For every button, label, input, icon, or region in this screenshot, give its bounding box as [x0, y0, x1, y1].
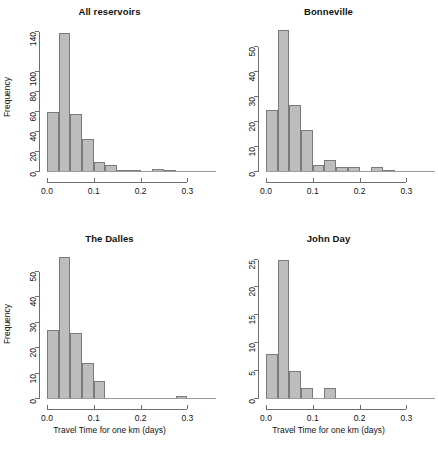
x-axis-tick-label: 0.2	[347, 413, 373, 423]
histogram-bar	[82, 139, 94, 172]
histogram-bar	[278, 30, 290, 173]
x-axis-line	[47, 182, 187, 183]
x-axis-tick	[266, 178, 267, 182]
x-axis-tick-label: 0.3	[393, 413, 419, 423]
panel-the-dalles: The Dalles Frequency Travel Time for one…	[0, 227, 219, 454]
histogram-bar	[70, 333, 82, 399]
y-axis-line	[258, 47, 259, 172]
histogram-bar	[82, 363, 94, 399]
bar-series	[266, 254, 411, 399]
plot-area: 0.00.10.20.30510152025	[266, 254, 411, 399]
y-axis-title: Frequency	[2, 294, 12, 354]
x-axis-tick	[141, 178, 142, 182]
histogram-bar	[289, 371, 301, 399]
y-axis-line	[39, 32, 40, 172]
plot-area: 0.00.10.20.301020304050	[47, 254, 192, 399]
x-axis-line	[47, 409, 187, 410]
x-axis-tick-label: 0.3	[393, 186, 419, 196]
x-axis-tick-label: 0.3	[174, 413, 200, 423]
histogram-bar	[59, 257, 71, 399]
bar-series	[47, 254, 192, 399]
histogram-bar	[94, 381, 106, 399]
plot-baseline	[266, 398, 435, 399]
x-axis-tick-label: 0.2	[347, 186, 373, 196]
plot-area: 0.00.10.20.301020304050	[266, 27, 411, 172]
y-axis-tick-label: 50	[28, 272, 38, 332]
x-axis-tick-label: 0.1	[300, 186, 326, 196]
panel-title: All reservoirs	[0, 6, 219, 17]
x-axis-tick	[187, 178, 188, 182]
x-axis-tick	[47, 178, 48, 182]
y-axis-tick-label: 50	[247, 47, 257, 107]
x-axis-tick	[313, 178, 314, 182]
x-axis-tick	[313, 405, 314, 409]
y-axis-line	[258, 260, 259, 399]
plot-baseline	[266, 171, 435, 172]
bar-series	[266, 27, 411, 172]
x-axis-line	[266, 182, 406, 183]
x-axis-tick	[47, 405, 48, 409]
plot-baseline	[47, 171, 216, 172]
histogram-bar	[59, 33, 71, 172]
x-axis-tick	[266, 405, 267, 409]
histogram-figure: All reservoirs Frequency 0.00.10.20.3020…	[0, 0, 438, 454]
histogram-bar	[70, 114, 82, 172]
x-axis-tick-label: 0.3	[174, 186, 200, 196]
panel-all-reservoirs: All reservoirs Frequency 0.00.10.20.3020…	[0, 0, 219, 227]
x-axis-tick	[94, 405, 95, 409]
x-axis-tick-label: 0.1	[81, 413, 107, 423]
histogram-bar	[266, 110, 278, 173]
histogram-bar	[47, 112, 59, 172]
plot-area: 0.00.10.20.3020406080100140	[47, 27, 192, 172]
panel-title: Bonneville	[219, 6, 438, 17]
panel-john-day: John Day Travel Time for one km (days) 0…	[219, 227, 438, 454]
histogram-bar	[278, 260, 290, 399]
x-axis-tick	[360, 178, 361, 182]
y-axis-title: Frequency	[2, 67, 12, 127]
y-axis-tick-label: 25	[247, 260, 257, 320]
x-axis-tick	[406, 178, 407, 182]
bar-series	[47, 27, 192, 172]
x-axis-tick-label: 0.2	[128, 186, 154, 196]
x-axis-tick	[406, 405, 407, 409]
x-axis-tick	[360, 405, 361, 409]
x-axis-tick	[187, 405, 188, 409]
x-axis-tick	[141, 405, 142, 409]
x-axis-tick-label: 0.1	[81, 186, 107, 196]
histogram-bar	[47, 330, 59, 399]
plot-baseline	[47, 398, 216, 399]
y-axis-line	[39, 272, 40, 399]
histogram-bar	[289, 105, 301, 173]
x-axis-line	[266, 409, 406, 410]
panel-title: John Day	[219, 233, 438, 244]
x-axis-tick	[94, 178, 95, 182]
panel-bonneville: Bonneville 0.00.10.20.301020304050	[219, 0, 438, 227]
histogram-bar	[266, 354, 278, 399]
y-axis-tick-label: 140	[28, 32, 38, 92]
panel-title: The Dalles	[0, 233, 219, 244]
histogram-bar	[301, 130, 313, 173]
x-axis-tick-label: 0.1	[300, 413, 326, 423]
x-axis-tick-label: 0.2	[128, 413, 154, 423]
